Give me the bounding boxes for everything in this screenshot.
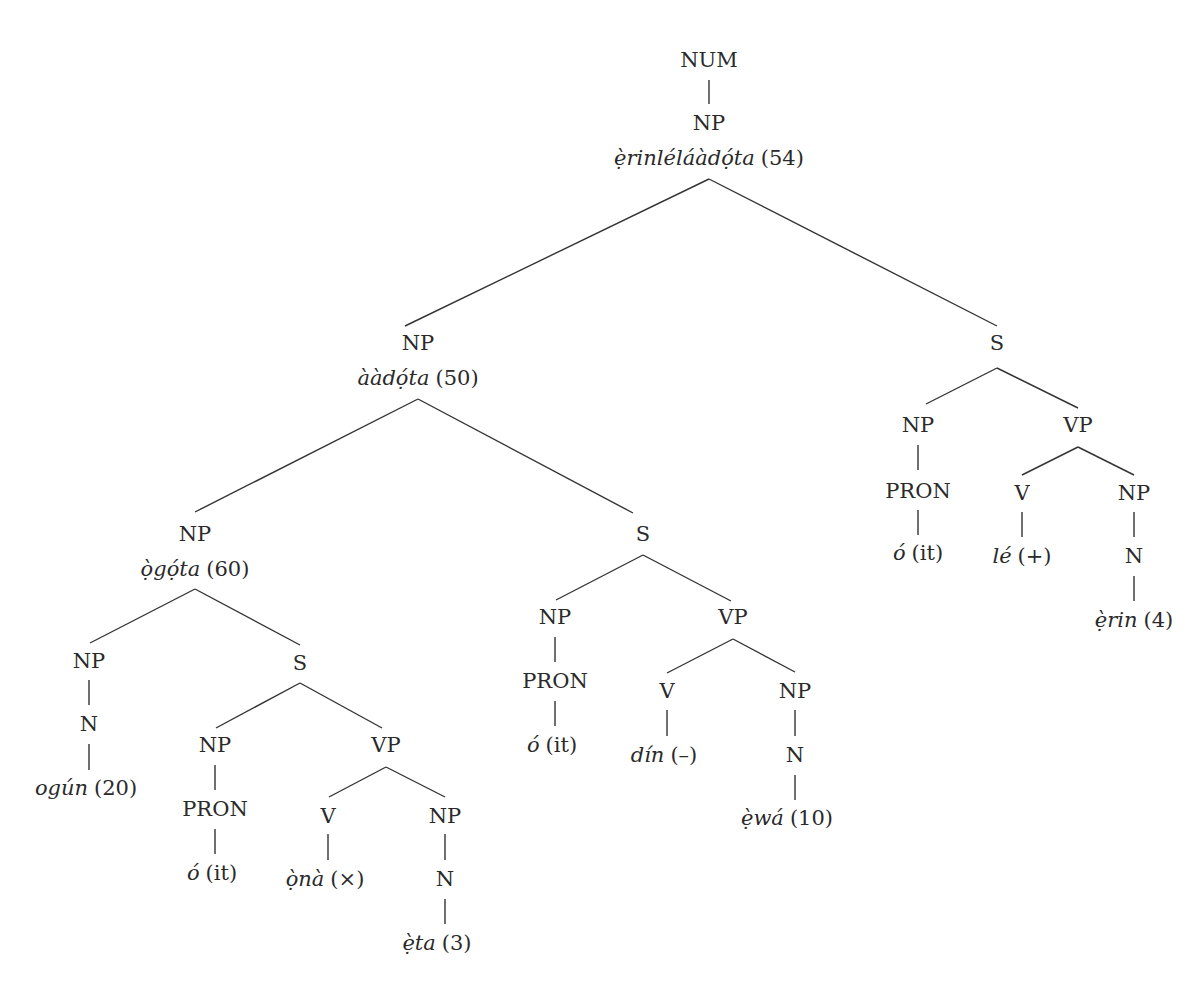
node-s-right-v: V (1013, 481, 1030, 505)
node-s-mid: S (636, 522, 650, 546)
word-s-right-n: ẹ̀rin(4) (1095, 608, 1173, 632)
edge-sright-np (926, 368, 997, 404)
node-s-low-np: NP (199, 733, 232, 757)
yoruba-word: ẹ̀ta (402, 931, 435, 955)
node-s-low-v: V (319, 804, 336, 828)
yoruba-word: lé (992, 544, 1011, 568)
yoruba-word: ó (893, 541, 906, 565)
word-np-left: ààdọ́ta(50) (357, 366, 478, 390)
gloss: (–) (670, 743, 697, 767)
edge-root-sright (709, 179, 997, 326)
yoruba-word: dín (631, 743, 665, 767)
edge (667, 639, 733, 673)
node-s-right-np: NP (902, 413, 935, 437)
node-s-right-obj-np: NP (1118, 481, 1151, 505)
edge (556, 555, 643, 600)
node-s-low-vp: VP (370, 733, 400, 757)
edge-sright-vp (997, 368, 1078, 408)
gloss: (3) (442, 931, 472, 955)
node-np-ogota: NP (179, 522, 212, 546)
yoruba-word: ẹ̀rinléláàdọ́ta (614, 146, 755, 170)
node-s-right-pron: PRON (885, 479, 951, 503)
edge (1078, 447, 1134, 475)
node-s-mid-v: V (658, 679, 675, 703)
word-np-root: ẹ̀rinléláàdọ́ta(54) (614, 146, 804, 170)
syntax-tree: NUM NP ẹ̀rinléláàdọ́ta(54) NP ààdọ́ta(50… (0, 0, 1194, 990)
node-s-mid-obj-np: NP (779, 679, 812, 703)
word-s-mid-v: dín(–) (631, 743, 698, 767)
gloss: (it) (206, 861, 238, 885)
yoruba-word: ẹ̀wá (741, 806, 784, 830)
edge-root-npleft (405, 179, 709, 326)
node-s-low-obj-np: NP (429, 804, 462, 828)
gloss: (it) (546, 733, 578, 757)
yoruba-word: ó (187, 861, 200, 885)
edge (386, 767, 445, 797)
gloss: (50) (435, 366, 478, 390)
word-s-low-v: ọ̀nà(×) (286, 867, 365, 891)
edge (643, 555, 731, 601)
word-s-right-pron: ó(it) (893, 541, 943, 565)
yoruba-word: ó (527, 733, 540, 757)
gloss: (it) (912, 541, 944, 565)
yoruba-word: ọ̀nà (286, 867, 325, 891)
gloss: (60) (206, 557, 249, 581)
edge-npleft-npogota (195, 399, 418, 512)
edge-npleft-smid (418, 399, 633, 513)
node-s-mid-n: N (786, 743, 804, 767)
node-s-low: S (293, 651, 307, 675)
gloss: (54) (761, 146, 804, 170)
word-s-mid-n: ẹ̀wá(10) (741, 806, 833, 830)
edge-ogota-slow (195, 589, 300, 645)
node-s-mid-np: NP (539, 605, 572, 629)
node-np-left: NP (402, 331, 435, 355)
node-s-mid-pron: PRON (522, 669, 588, 693)
edge (216, 683, 300, 728)
node-s-low-n: N (436, 867, 454, 891)
edge (300, 683, 382, 728)
yoruba-word: ọ̀gọ́ta (141, 557, 201, 581)
node-s-right: S (990, 331, 1004, 355)
word-s-mid-pron: ó(it) (527, 733, 577, 757)
gloss: (20) (94, 776, 137, 800)
word-np-ogun: ogún(20) (35, 776, 137, 800)
gloss: (+) (1018, 544, 1052, 568)
node-num: NUM (680, 48, 738, 72)
node-np-ogun: NP (73, 649, 106, 673)
node-np-ogun-n: N (80, 712, 98, 736)
edge (733, 639, 795, 672)
edge (329, 767, 386, 797)
word-s-right-v: lé(+) (992, 544, 1051, 568)
word-s-low-pron: ó(it) (187, 861, 237, 885)
word-s-low-n: ẹ̀ta(3) (402, 931, 471, 955)
node-s-right-n: N (1125, 544, 1143, 568)
word-np-ogota: ọ̀gọ́ta(60) (141, 557, 250, 581)
gloss: (4) (1143, 608, 1173, 632)
yoruba-word: ààdọ́ta (357, 366, 429, 390)
node-s-low-pron: PRON (182, 797, 248, 821)
edge (1022, 447, 1078, 475)
node-s-right-vp: VP (1062, 413, 1092, 437)
yoruba-word: ogún (35, 776, 88, 800)
gloss: (10) (790, 806, 833, 830)
node-s-mid-vp: VP (717, 605, 747, 629)
yoruba-word: ẹ̀rin (1095, 608, 1138, 632)
edge-ogota-ogun (90, 589, 195, 643)
gloss: (×) (330, 867, 364, 891)
node-np-root: NP (693, 111, 726, 135)
